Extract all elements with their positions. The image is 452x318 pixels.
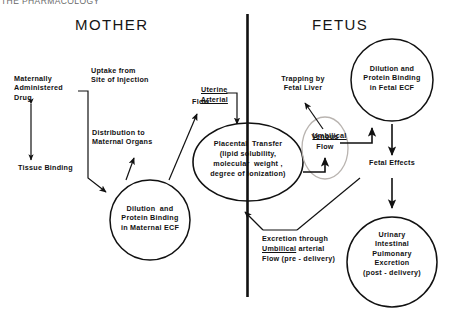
placental-transfer-line1: Placental Transfer [198, 139, 298, 148]
fetal-effects-label: Fetal Effects [355, 158, 429, 167]
excretion-through-label: Excretion through [262, 234, 328, 243]
fetus-title: FETUS [312, 16, 368, 33]
mother-title: MOTHER [75, 16, 148, 33]
venous-label: Venous [300, 132, 350, 141]
post-delivery-excretion-label: Urinary Intestinal Pulmonary Excretion (… [352, 230, 432, 277]
placental-transfer-line3: molecular weight , [198, 159, 298, 168]
uterine-flow-label: Flow [192, 97, 209, 106]
maternal-ecf-label: Dilution and Protein Binding in Maternal… [110, 204, 190, 232]
distribution-to-maternal-organs-label: Distribution to Maternal Organs [92, 128, 152, 147]
maternal-ecf-to-uterine-flow-arrow [169, 114, 197, 180]
tissue-binding-label: Tissue Binding [18, 163, 73, 172]
trapping-by-fetal-liver-label: Trapping by Fetal Liver [270, 74, 336, 93]
maternal-ecf-to-distribution-arrow [126, 158, 134, 180]
fetal-ecf-label: Dilution and Protein Binding in Fetal EC… [352, 64, 432, 92]
placental-transfer-line2: (lipid solubility, [198, 149, 298, 158]
uptake-from-site-of-injection-label: Uptake from Site of Injection [91, 66, 149, 85]
maternally-administered-drug-label: Maternally Administered Drug [14, 74, 63, 102]
umbilical-underlined-text: Umbilical [262, 244, 296, 253]
fetal-effects-to-excretion-line [297, 178, 360, 230]
umbilical-arterial-label: Umbilical arterial [262, 244, 324, 253]
arterial-text-rest: arterial [296, 244, 324, 253]
umbilical-venous-flow-label: Flow [300, 142, 350, 151]
placental-transfer-line4: degree of ionization) [196, 169, 300, 178]
pre-delivery-flow-label: Flow (pre - delivery) [262, 254, 335, 263]
placental-transfer-diagram: THE PHARMACOLOGY [0, 0, 452, 318]
